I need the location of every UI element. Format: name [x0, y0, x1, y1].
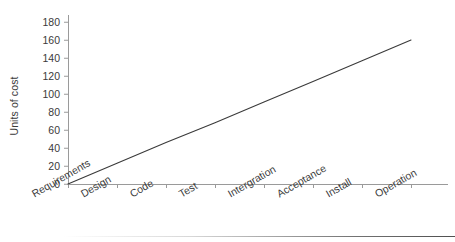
bottom-divider — [0, 236, 455, 237]
y-axis-tick: 60 — [48, 125, 68, 136]
y-axis-tick-label: 180 — [42, 17, 64, 28]
x-axis-tick-mark — [362, 184, 363, 188]
y-axis-tick-label: 100 — [42, 89, 64, 100]
x-axis-tick-mark — [215, 184, 216, 188]
x-axis-tick-mark — [264, 184, 265, 188]
x-axis-tick-mark — [411, 184, 412, 188]
x-axis-tick-mark — [68, 184, 69, 188]
y-axis-title: Units of cost — [2, 56, 26, 156]
y-axis-tick: 140 — [42, 53, 68, 64]
y-axis-tick: 40 — [48, 143, 68, 154]
x-axis-tick-mark — [117, 184, 118, 188]
x-axis-tick-mark — [313, 184, 314, 188]
y-axis-tick: 180 — [42, 17, 68, 28]
y-axis-tick-label: 120 — [42, 71, 64, 82]
y-axis-tick-label: 160 — [42, 35, 64, 46]
y-axis-tick-label: 40 — [48, 143, 64, 154]
y-axis-tick-label: 140 — [42, 53, 64, 64]
y-axis-tick: 160 — [42, 35, 68, 46]
x-axis-tick-mark — [166, 184, 167, 188]
y-axis-tick-label: 80 — [48, 107, 64, 118]
y-axis-tick: 80 — [48, 107, 68, 118]
cost-of-change-chart: Units of cost 020406080100120140160180 R… — [0, 0, 455, 242]
y-axis-title-label: Units of cost — [8, 76, 20, 135]
plot-area: 020406080100120140160180 RequirementsDes… — [68, 22, 448, 184]
y-axis-tick-label: 60 — [48, 125, 64, 136]
y-axis-tick: 120 — [42, 71, 68, 82]
data-series-line — [68, 22, 448, 184]
y-axis-tick: 100 — [42, 89, 68, 100]
